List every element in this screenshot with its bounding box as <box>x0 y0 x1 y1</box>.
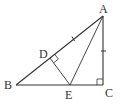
segment-ab <box>16 16 103 85</box>
right-angle-mark-c <box>97 79 103 85</box>
segment-ae <box>70 16 103 85</box>
point-label-c: C <box>105 87 113 99</box>
right-angle-mark-d <box>54 54 59 63</box>
point-label-d: D <box>39 48 48 60</box>
point-label-a: A <box>99 3 108 15</box>
point-label-e: E <box>65 89 72 101</box>
segment-de <box>50 58 70 85</box>
point-label-b: B <box>4 79 12 91</box>
